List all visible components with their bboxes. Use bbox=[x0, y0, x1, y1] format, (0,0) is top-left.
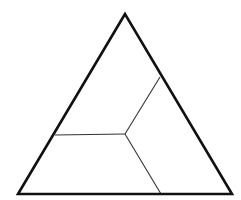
background bbox=[0, 0, 241, 200]
triangle-diagram bbox=[0, 0, 241, 200]
